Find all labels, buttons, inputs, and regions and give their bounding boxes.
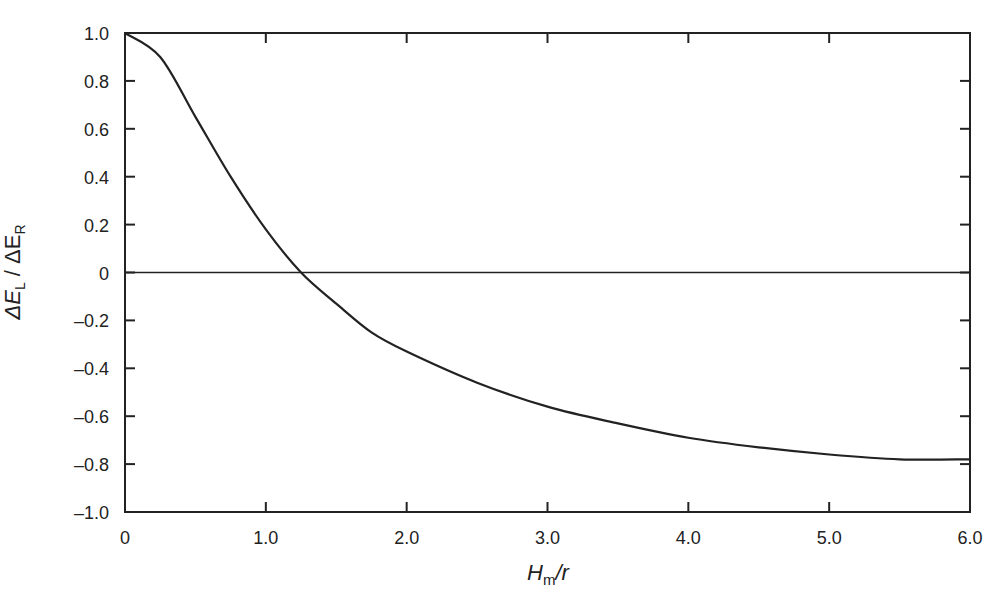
plot-area: 1.00.80.60.40.20–0.2–0.4–0.6–0.8–1.001.0…	[0, 0, 1008, 603]
y-tick-label: –0.2	[74, 311, 109, 331]
y-tick-label: –0.6	[74, 407, 109, 427]
x-tick-label: 6.0	[957, 528, 982, 548]
y-tick-label: 0	[99, 264, 109, 284]
x-tick-label: 0	[120, 528, 130, 548]
y-tick-label: –0.8	[74, 455, 109, 475]
y-tick-label: 1.0	[84, 24, 109, 44]
y-tick-label: 0.6	[84, 120, 109, 140]
y-axis-label: ΔEL / ΔER	[0, 224, 28, 319]
y-tick-label: 0.4	[84, 168, 109, 188]
y-tick-label: 0.8	[84, 72, 109, 92]
x-tick-label: 4.0	[676, 528, 701, 548]
x-tick-label: 1.0	[253, 528, 278, 548]
y-tick-label: –0.4	[74, 359, 109, 379]
y-tick-label: –1.0	[74, 503, 109, 523]
data-curve	[125, 33, 970, 460]
x-tick-label: 3.0	[535, 528, 560, 548]
x-tick-label: 5.0	[817, 528, 842, 548]
x-tick-label: 2.0	[394, 528, 419, 548]
x-axis-label: Hm/r	[527, 560, 569, 588]
y-tick-label: 0.2	[84, 216, 109, 236]
